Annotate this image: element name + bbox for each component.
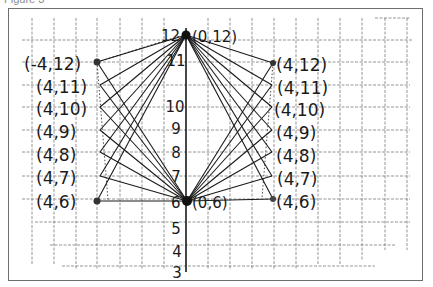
point-left-bottom bbox=[94, 198, 101, 205]
axis-tick-3: 3 bbox=[172, 264, 182, 282]
right-label: (4,8) bbox=[276, 146, 316, 166]
left-label: (4,9) bbox=[36, 122, 76, 142]
center-bottom-label: (0,6) bbox=[192, 194, 228, 212]
axis-tick-6: 6 bbox=[171, 194, 181, 212]
left-label: (-4,12) bbox=[24, 54, 81, 74]
axis-tick-4: 4 bbox=[172, 243, 182, 261]
point-center-top bbox=[182, 31, 191, 40]
left-label: (4,11) bbox=[36, 77, 87, 97]
left-label: (4,6) bbox=[36, 192, 76, 212]
left-dotted-line bbox=[97, 62, 108, 200]
axis-tick-7: 7 bbox=[171, 168, 181, 186]
left-label: (4,8) bbox=[36, 145, 76, 165]
axis-tick-5: 5 bbox=[171, 220, 181, 238]
right-label: (4,9) bbox=[276, 123, 316, 143]
right-label: (4,7) bbox=[277, 169, 317, 189]
left-label: (4,10) bbox=[36, 99, 87, 119]
axis-tick-12: 12 bbox=[161, 27, 180, 45]
right-label: (4,10) bbox=[274, 100, 325, 120]
axis-tick-9: 9 bbox=[171, 120, 181, 138]
right-label: (4,11) bbox=[277, 78, 328, 98]
axis-tick-11: 11 bbox=[166, 52, 185, 70]
point-left-top bbox=[94, 59, 101, 66]
right-label: (4,12) bbox=[276, 55, 327, 75]
axis-tick-10: 10 bbox=[165, 98, 184, 116]
left-label: (4,7) bbox=[36, 168, 76, 188]
graph-drawing: (-4,12) (4,11) (4,10) (4,9) (4,8) (4,7) … bbox=[0, 0, 433, 287]
center-top-label: (0,12) bbox=[192, 28, 237, 46]
right-label: (4,6) bbox=[276, 192, 316, 212]
point-center-bottom bbox=[182, 196, 192, 206]
axis-tick-8: 8 bbox=[171, 144, 181, 162]
